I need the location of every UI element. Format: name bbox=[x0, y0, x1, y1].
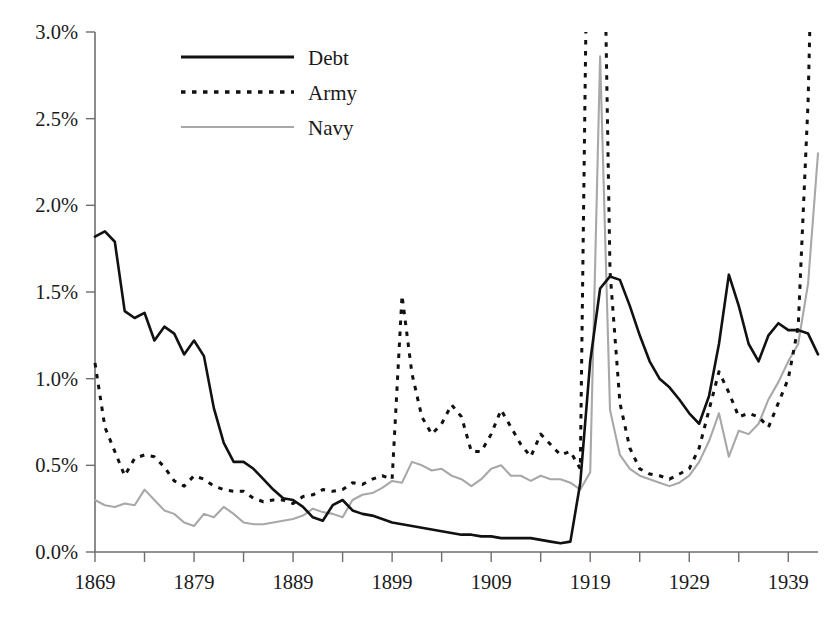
y-tick-label: 3.0% bbox=[35, 21, 78, 43]
x-tick-label: 1869 bbox=[75, 571, 116, 593]
y-tick-label: 1.5% bbox=[35, 281, 78, 303]
series-line-debt bbox=[95, 231, 818, 543]
chart-container: 0.0%0.5%1.0%1.5%2.0%2.5%3.0%186918791889… bbox=[0, 0, 826, 625]
x-tick-label: 1939 bbox=[768, 571, 809, 593]
x-tick-label: 1909 bbox=[471, 571, 512, 593]
legend-label-debt: Debt bbox=[308, 46, 349, 70]
y-tick-label: 2.0% bbox=[35, 194, 78, 216]
y-tick-label: 0.0% bbox=[35, 541, 78, 563]
series-line-army bbox=[95, 0, 818, 503]
legend-label-army: Army bbox=[308, 81, 357, 105]
x-tick-label: 1919 bbox=[570, 571, 611, 593]
line-chart: 0.0%0.5%1.0%1.5%2.0%2.5%3.0%186918791889… bbox=[0, 0, 826, 625]
x-tick-label: 1879 bbox=[174, 571, 215, 593]
axes: 0.0%0.5%1.0%1.5%2.0%2.5%3.0%186918791889… bbox=[35, 21, 818, 593]
legend: DebtArmyNavy bbox=[181, 46, 357, 140]
series-group bbox=[95, 0, 818, 543]
y-tick-label: 0.5% bbox=[35, 454, 78, 476]
x-tick-label: 1889 bbox=[273, 571, 314, 593]
x-tick-label: 1929 bbox=[669, 571, 710, 593]
y-tick-label: 2.5% bbox=[35, 108, 78, 130]
x-tick-label: 1899 bbox=[372, 571, 413, 593]
y-tick-label: 1.0% bbox=[35, 368, 78, 390]
legend-label-navy: Navy bbox=[308, 116, 354, 140]
